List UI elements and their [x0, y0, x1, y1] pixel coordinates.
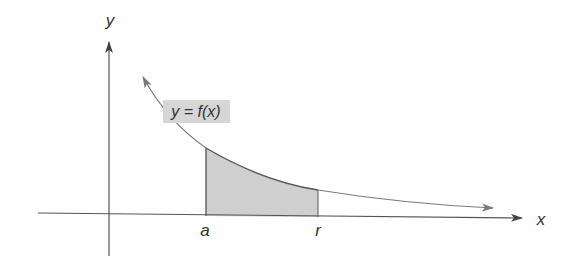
y-axis-label: y [105, 11, 116, 30]
shaded-area [206, 148, 318, 217]
area-under-curve-diagram: y = f(x) y x a r [0, 0, 578, 271]
curve-label: y = f(x) [170, 103, 220, 120]
bound-label-r: r [315, 221, 322, 240]
curve-right [318, 190, 493, 208]
x-axis-label: x [536, 210, 546, 229]
bound-label-a: a [200, 221, 209, 240]
